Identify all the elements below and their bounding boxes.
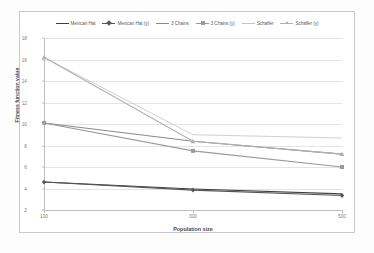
data-point-marker (191, 149, 195, 153)
legend-item-1[interactable]: Mexican Hat (56, 21, 96, 26)
x-tick-label: 500 (327, 214, 357, 219)
y-tick-label: 14 (13, 79, 27, 84)
series-lines-layer (44, 38, 342, 210)
y-tick-label: 12 (13, 100, 27, 105)
series-5 (44, 57, 342, 138)
series-line (44, 57, 342, 138)
legend-item-5[interactable]: Schaffer (242, 21, 274, 26)
legend-swatch-icon (102, 21, 115, 26)
y-tick-mark (42, 38, 44, 39)
x-axis-title: Population size (44, 226, 342, 232)
y-tick-label: 16 (13, 57, 27, 62)
legend-swatch-icon (196, 21, 209, 26)
legend-item-2[interactable]: Mexican Hat (y) (102, 21, 148, 26)
y-tick-mark (42, 188, 44, 189)
legend-label: Schaffer (257, 21, 274, 26)
y-tick-mark (42, 102, 44, 103)
legend-label: 3 Chains (171, 21, 189, 26)
series-6 (42, 55, 345, 156)
y-tick-label: 2 (13, 208, 27, 213)
legend-swatch-icon (56, 21, 69, 26)
chart-figure: Mexican HatMexican Hat (y)3 Chains3 Chai… (0, 0, 374, 253)
y-tick-label: 18 (13, 36, 27, 41)
x-tick-mark (193, 210, 194, 213)
y-tick-mark (42, 124, 44, 125)
x-tick-mark (44, 210, 45, 213)
legend-item-6[interactable]: Schaffer (y) (280, 21, 318, 26)
y-tick-mark (42, 167, 44, 168)
y-tick-mark (42, 81, 44, 82)
series-2 (42, 180, 344, 198)
chart-legend: Mexican HatMexican Hat (y)3 Chains3 Chai… (24, 16, 350, 30)
y-tick-label: 6 (13, 165, 27, 170)
legend-label: Schaffer (y) (295, 21, 318, 26)
legend-swatch-icon (280, 21, 293, 26)
y-tick-mark (42, 145, 44, 146)
legend-swatch-icon (156, 21, 169, 26)
series-line (44, 123, 342, 167)
x-tick-mark (342, 210, 343, 213)
y-tick-mark (42, 59, 44, 60)
y-tick-label: 8 (13, 143, 27, 148)
legend-item-3[interactable]: 3 Chains (156, 21, 189, 26)
x-tick-label: 300 (178, 214, 208, 219)
legend-label: Mexican Hat (71, 21, 96, 26)
x-tick-label: 100 (29, 214, 59, 219)
legend-item-4[interactable]: 3 Chains (y) (196, 21, 235, 26)
y-tick-label: 10 (13, 122, 27, 127)
data-point-marker (340, 165, 344, 169)
legend-swatch-icon (242, 21, 255, 26)
y-tick-label: 4 (13, 186, 27, 191)
legend-label: Mexican Hat (y) (117, 21, 148, 26)
legend-label: 3 Chains (y) (211, 21, 235, 26)
